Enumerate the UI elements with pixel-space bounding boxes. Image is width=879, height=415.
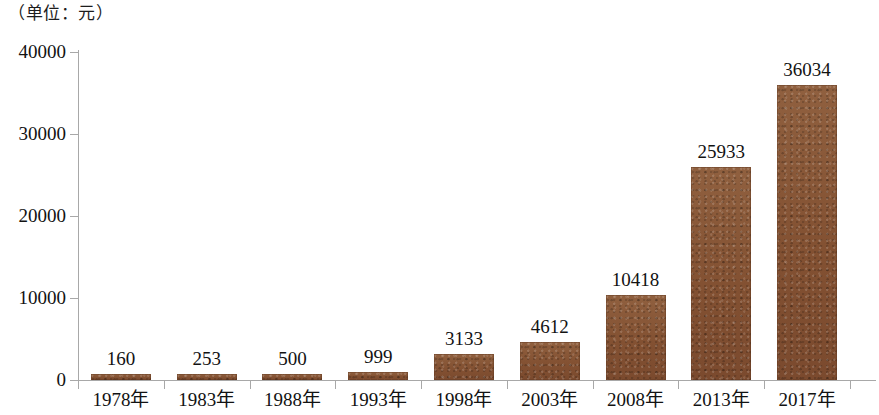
bar-value-label: 160 — [78, 349, 164, 368]
y-axis-label: 20000 — [0, 206, 66, 225]
bar-value-label: 253 — [164, 349, 250, 368]
bar-chart: （单位：元） 010000200003000040000 16025350099… — [0, 0, 879, 415]
bar-value-label: 500 — [250, 349, 336, 368]
x-axis-category-label: 2017年 — [764, 388, 850, 412]
y-axis-label-text: 20000 — [0, 206, 66, 225]
bar — [91, 374, 151, 380]
x-axis-category-label: 1978年 — [78, 388, 164, 412]
x-axis-category-label: 2008年 — [593, 388, 679, 412]
y-axis-label: 30000 — [0, 124, 66, 143]
x-axis-category-label: 1983年 — [164, 388, 250, 412]
y-axis-label-text: 0 — [0, 370, 66, 389]
x-axis-category-label: 2003年 — [507, 388, 593, 412]
x-axis-category-label: 1998年 — [421, 388, 507, 412]
bar — [691, 167, 751, 380]
bar — [177, 374, 237, 380]
bar — [434, 354, 494, 380]
y-axis-tick — [70, 380, 78, 381]
y-axis-label: 10000 — [0, 288, 66, 307]
bar-value-label: 4612 — [507, 317, 593, 336]
y-axis-label: 0 — [0, 370, 66, 389]
y-axis-label-text: 10000 — [0, 288, 66, 307]
bar — [777, 85, 837, 380]
y-axis-label-text: 30000 — [0, 124, 66, 143]
x-axis-line — [78, 380, 876, 381]
bar — [520, 342, 580, 380]
x-axis-category-label: 1988年 — [250, 388, 336, 412]
y-axis-tick — [70, 298, 78, 299]
y-axis-tick — [70, 134, 78, 135]
bar-value-label: 999 — [335, 347, 421, 366]
bar — [262, 374, 322, 380]
bar-value-label: 25933 — [678, 142, 764, 161]
bar-value-label: 36034 — [764, 60, 850, 79]
bar-value-label: 3133 — [421, 329, 507, 348]
y-axis-tick — [70, 52, 78, 53]
x-axis-category-label: 1993年 — [335, 388, 421, 412]
y-axis-tick — [70, 216, 78, 217]
y-axis-label: 40000 — [0, 42, 66, 61]
x-axis-category-label: 2013年 — [678, 388, 764, 412]
x-axis-tick — [850, 381, 851, 389]
bar-value-label: 10418 — [593, 270, 679, 289]
unit-caption: （单位：元） — [8, 3, 113, 25]
bar — [348, 372, 408, 380]
y-axis-label-text: 40000 — [0, 42, 66, 61]
bar — [606, 295, 666, 380]
